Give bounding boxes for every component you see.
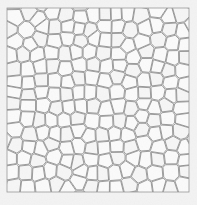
page-root: Voronoi Mosaic Tessellation [0, 0, 197, 205]
paper-grain-overlay [0, 0, 197, 205]
voronoi-mosaic-figure [0, 0, 197, 205]
mosaic-canvas [0, 0, 197, 205]
